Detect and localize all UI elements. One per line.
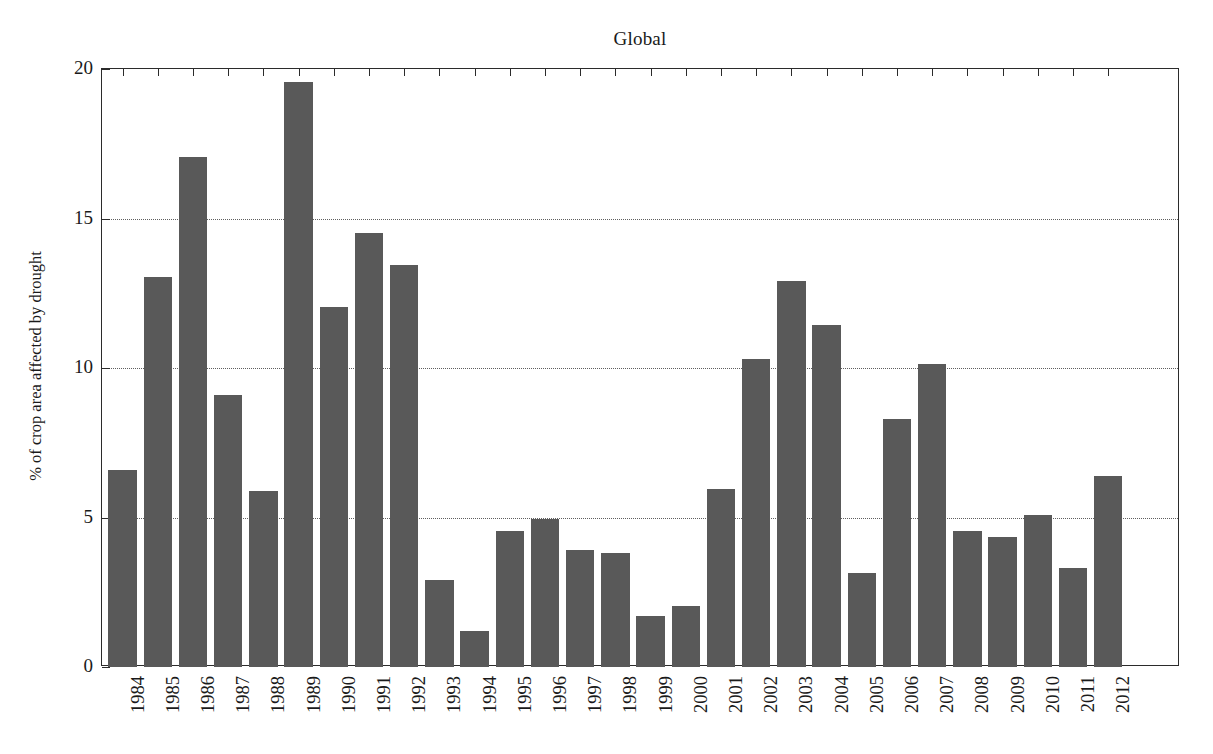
x-tick-mark-1996 [545,658,546,665]
bar [566,550,594,667]
y-tick-label-5: 5 [53,507,93,526]
chart-figure: Global % of crop area affected by drough… [0,0,1213,754]
x-tick-mark-2012 [1108,658,1109,665]
x-tick-mark-2003 [791,658,792,665]
x-tick-label-2008: 2008 [974,676,990,750]
x-tick-mark-top-1994 [475,69,476,76]
x-tick-label-1985: 1985 [165,676,181,750]
x-tick-mark-top-1989 [299,69,300,76]
x-tick-mark-2005 [862,658,863,665]
x-tick-label-1988: 1988 [270,676,286,750]
x-tick-label-1999: 1999 [658,676,674,750]
x-tick-label-1993: 1993 [446,676,462,750]
x-tick-mark-top-2000 [686,69,687,76]
x-tick-mark-2000 [686,658,687,665]
x-tick-mark-1998 [615,658,616,665]
bar [531,519,559,667]
x-tick-mark-1984 [123,658,124,665]
y-tick-label-15: 15 [53,208,93,227]
bar [108,470,136,667]
bar [214,395,242,667]
x-axis-tick-labels: 1984198519861987198819891990199119921993… [101,666,1179,754]
y-tick-mark-20 [102,69,110,70]
x-tick-label-1984: 1984 [130,676,146,750]
x-tick-mark-1985 [158,658,159,665]
x-tick-mark-2007 [932,658,933,665]
y-axis-label: % of crop area affected by drought [26,66,48,666]
x-tick-mark-1999 [651,658,652,665]
gridline-10 [102,368,1178,369]
x-tick-label-1987: 1987 [235,676,251,750]
x-tick-label-2011: 2011 [1080,676,1096,750]
gridline-15 [102,219,1178,220]
x-tick-mark-1986 [193,658,194,665]
x-tick-label-1992: 1992 [411,676,427,750]
x-tick-mark-top-2005 [862,69,863,76]
x-tick-mark-top-1991 [369,69,370,76]
bar [425,580,453,667]
x-tick-label-2005: 2005 [869,676,885,750]
y-tick-mark-15 [102,219,110,220]
x-tick-mark-1992 [404,658,405,665]
x-tick-mark-top-1984 [123,69,124,76]
x-tick-mark-top-1996 [545,69,546,76]
x-tick-mark-top-1988 [263,69,264,76]
x-tick-mark-1993 [439,658,440,665]
plot-area [101,68,1179,666]
bar [355,233,383,667]
bar [1094,476,1122,667]
bar [390,265,418,667]
gridline-5 [102,518,1178,519]
x-tick-label-1998: 1998 [622,676,638,750]
x-tick-label-1995: 1995 [517,676,533,750]
y-tick-label-0: 0 [53,656,93,675]
x-tick-label-1991: 1991 [376,676,392,750]
x-tick-mark-1987 [228,658,229,665]
x-tick-mark-top-1999 [651,69,652,76]
x-tick-mark-1988 [263,658,264,665]
bar [144,277,172,667]
x-tick-mark-1995 [510,658,511,665]
x-tick-mark-top-1987 [228,69,229,76]
x-tick-mark-top-2003 [791,69,792,76]
y-axis-tick-labels: 05101520 [51,68,93,666]
bar [918,364,946,667]
bar [883,419,911,667]
x-tick-mark-2008 [967,658,968,665]
x-tick-label-2012: 2012 [1115,676,1131,750]
bar [284,82,312,667]
x-tick-mark-1994 [475,658,476,665]
y-tick-mark-5 [102,518,110,519]
bar [848,573,876,667]
x-tick-mark-1997 [580,658,581,665]
x-tick-mark-top-2001 [721,69,722,76]
x-tick-label-1989: 1989 [306,676,322,750]
x-tick-mark-top-1998 [615,69,616,76]
bar [601,553,629,667]
x-tick-mark-top-2011 [1073,69,1074,76]
x-tick-mark-top-1992 [404,69,405,76]
x-tick-mark-1990 [334,658,335,665]
x-tick-label-2007: 2007 [939,676,955,750]
x-tick-label-2004: 2004 [834,676,850,750]
x-tick-mark-top-2009 [1003,69,1004,76]
bar [742,359,770,667]
y-tick-mark-10 [102,368,110,369]
bar [988,537,1016,667]
x-tick-label-2009: 2009 [1010,676,1026,750]
x-tick-label-1994: 1994 [482,676,498,750]
x-tick-mark-top-2010 [1038,69,1039,76]
x-tick-label-1997: 1997 [587,676,603,750]
x-tick-label-2006: 2006 [904,676,920,750]
bar [496,531,524,667]
x-tick-mark-top-1990 [334,69,335,76]
x-tick-mark-top-2012 [1108,69,1109,76]
x-tick-label-2001: 2001 [728,676,744,750]
x-tick-mark-top-2004 [827,69,828,76]
x-tick-mark-top-2008 [967,69,968,76]
x-tick-mark-top-1995 [510,69,511,76]
x-tick-mark-top-2007 [932,69,933,76]
x-tick-mark-2001 [721,658,722,665]
x-tick-mark-2010 [1038,658,1039,665]
bar [777,281,805,667]
